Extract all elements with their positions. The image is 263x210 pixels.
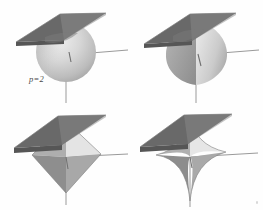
figure-canvas: p=2 [0,0,263,210]
facet-bottom-right [190,152,226,201]
panel-p2: p=2 [0,0,131,105]
tangent-plane [140,114,232,152]
panel-p2-graphic [0,0,131,105]
panel-p15-graphic [132,0,263,105]
image-artifact-speck [256,201,258,204]
panel-p10-graphic [0,105,131,210]
panel-p10: p=1. 0 [0,105,131,210]
panel-p15: p=1. 5 [132,0,263,105]
panel-p07: p=0. 7 [132,105,263,210]
panel-p2-label: p=2 [29,74,44,84]
panel-p07-graphic [132,105,263,210]
